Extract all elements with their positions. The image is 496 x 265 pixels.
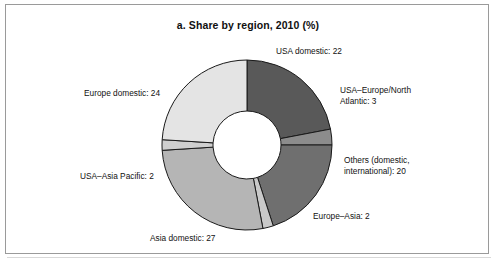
- donut-slice: [247, 60, 330, 139]
- slice-label-others: Others (domestic, international): 20: [344, 155, 440, 176]
- chart-title: a. Share by region, 2010 (%): [0, 19, 496, 31]
- slice-label-text-line2: international): 20: [344, 166, 406, 176]
- slice-label-text: Europe domestic: 24: [84, 88, 160, 98]
- figure-frame-shadow: [7, 257, 491, 258]
- slice-label-text: USA–Asia Pacific: 2: [80, 171, 154, 181]
- slice-label-usa-domestic: USA domestic: 22: [276, 46, 342, 57]
- slice-label-europe-asia: Europe–Asia: 2: [313, 211, 370, 222]
- slice-label-text: Europe–Asia: 2: [313, 211, 370, 221]
- slice-label-text-line2: Atlantic: 3: [340, 96, 376, 106]
- donut-slice: [162, 147, 263, 230]
- donut-slice: [162, 60, 247, 143]
- slice-label-europe-domestic: Europe domestic: 24: [84, 88, 160, 99]
- slice-label-usa-asia-pacific: USA–Asia Pacific: 2: [80, 171, 154, 182]
- donut-slices: [162, 60, 332, 230]
- donut-chart: [161, 59, 333, 231]
- slice-label-text: USA domestic: 22: [276, 46, 342, 56]
- slice-label-text-line1: USA–Europe/North: [340, 85, 411, 95]
- donut-svg: [161, 59, 333, 231]
- slice-label-text-line1: Others (domestic,: [344, 155, 409, 165]
- slice-label-usa-europe-north-atlantic: USA–Europe/North Atlantic: 3: [340, 85, 436, 106]
- figure-container: a. Share by region, 2010 (%) USA domesti…: [0, 0, 496, 265]
- slice-label-asia-domestic: Asia domestic: 27: [150, 233, 215, 244]
- slice-label-text: Asia domestic: 27: [150, 233, 215, 243]
